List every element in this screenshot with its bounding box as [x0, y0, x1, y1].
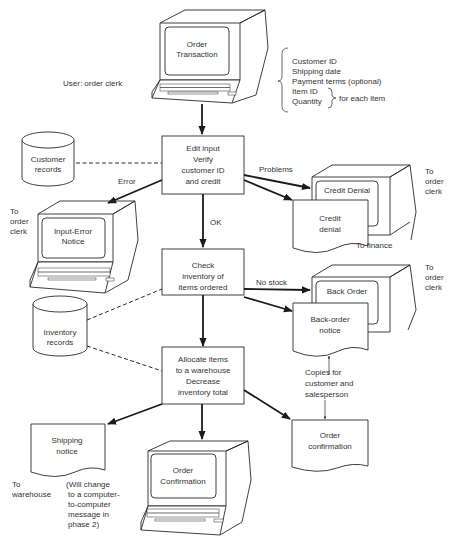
back-order-doc-label-1: Back-order [310, 315, 349, 324]
allocate-label-2: to a warehouse [176, 366, 231, 375]
order-confirmation-terminal-icon [141, 441, 251, 535]
order-confirmation-doc-label-2: confirmation [308, 442, 352, 451]
field-shipping-date: Shipping date [292, 67, 341, 76]
customer-records-label-2: records [35, 165, 62, 174]
field-payment-terms: Payment terms (optional) [292, 77, 382, 86]
back-order-dest-1: To [425, 263, 434, 272]
phase-note-3: to-computer [68, 500, 111, 509]
inventory-records-label-1: Inventory [44, 328, 77, 337]
input-error-label-1: Input-Error [54, 227, 93, 236]
back-order-dest-3: clerk [425, 283, 443, 292]
ok-label: OK [210, 218, 222, 227]
inventory-of-label: inventory of [182, 272, 224, 281]
customer-records-label-1: Customer [31, 155, 66, 164]
and-credit-label: and credit [185, 177, 221, 186]
brace-icon [278, 48, 288, 112]
no-stock-label: No stock [256, 278, 288, 287]
user-label: User: order clerk [63, 79, 123, 88]
order-confirmation-terminal-label-1: Order [173, 466, 194, 475]
copies-note-2: customer and [305, 379, 353, 388]
credit-denial-doc-label-2: denial [319, 225, 341, 234]
copies-note-1: Copies for [305, 368, 342, 377]
phase-note-4: message in [68, 510, 109, 519]
edit-input-label: Edit input [186, 144, 220, 153]
copies-note-3: salesperson [305, 390, 348, 399]
input-error-dest-1: To [10, 207, 19, 216]
back-order-doc-label-2: notice [319, 326, 341, 335]
credit-denial-dest-3: clerk [425, 187, 443, 196]
shipping-dest-1: To [12, 480, 21, 489]
allocate-label-1: Allocate items [178, 355, 228, 364]
credit-denial-doc-dest: To finance [356, 241, 393, 250]
verify-label: Verify [193, 155, 213, 164]
input-error-label-2: Notice [62, 237, 85, 246]
problems-label: Problems [259, 165, 293, 174]
field-item-id: Item ID [292, 87, 318, 96]
field-quantity: Quantity [292, 97, 322, 106]
error-label: Error [118, 177, 136, 186]
credit-denial-dest-1: To [425, 167, 434, 176]
shipping-notice-label-2: notice [56, 447, 78, 456]
terminal-label-transaction: Transaction [176, 50, 218, 59]
shipping-dest-2: warehouse [11, 490, 52, 499]
order-confirmation-terminal-label-2: Confirmation [160, 477, 205, 486]
phase-note-1: (Will change [66, 480, 111, 489]
field-customer-id: Customer ID [292, 57, 337, 66]
customer-id-label: customer ID [181, 166, 224, 175]
small-brace-icon [328, 88, 336, 108]
allocate-label-4: inventory total [178, 388, 228, 397]
input-error-terminal-icon [30, 201, 138, 293]
back-order-dest-2: order [425, 273, 444, 282]
inventory-records-label-2: records [47, 338, 74, 347]
back-order-screen-label: Back Order [327, 287, 368, 296]
for-each-item-label: for each item [339, 94, 386, 103]
phase-note-5: phase 2) [68, 520, 99, 529]
input-error-dest-2: order [10, 217, 29, 226]
credit-denial-doc-label-1: Credit [319, 214, 341, 223]
items-ordered-label: items ordered [179, 283, 228, 292]
order-confirmation-doc-label-1: Order [320, 431, 341, 440]
terminal-label-order: Order [187, 40, 208, 49]
allocate-label-3: Decrease [186, 377, 221, 386]
credit-denial-screen-label: Credit Denial [324, 186, 370, 195]
shipping-notice-label-1: Shipping [51, 436, 82, 445]
phase-note-2: to a computer- [68, 490, 120, 499]
credit-denial-dest-2: order [425, 177, 444, 186]
inventory-records-database-icon [33, 296, 87, 356]
input-error-dest-3: clerk [10, 227, 28, 236]
check-label: Check [192, 261, 216, 270]
